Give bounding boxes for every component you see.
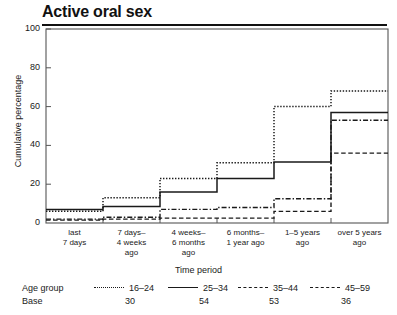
legend-base-label: Base [22, 296, 43, 306]
legend-entry-35-44[interactable]: 35–44 [238, 283, 298, 293]
legend-base-row: Base 30545336 [22, 296, 397, 309]
legend-entry-16-24[interactable]: 16–24 [94, 283, 154, 293]
legend-series-row: Age group 16–2425–3435–4445–59 [22, 283, 397, 296]
legend-series-name: 25–34 [203, 283, 228, 293]
legend-age-group-label: Age group [22, 283, 64, 293]
x-axis-label: Time period [0, 265, 397, 275]
chart-figure: Active oral sex Cumulative percentage 02… [0, 0, 397, 315]
legend-line-swatch [310, 287, 340, 288]
legend-line-swatch [168, 287, 198, 288]
series-line-25-34 [46, 112, 388, 209]
plot-frame [46, 29, 388, 223]
legend-base-value: 36 [326, 296, 366, 306]
legend-series-name: 16–24 [129, 283, 154, 293]
legend-base-value: 53 [254, 296, 294, 306]
legend-line-swatch [94, 287, 124, 288]
series-line-16-24 [46, 91, 388, 211]
legend-entry-25-34[interactable]: 25–34 [168, 283, 228, 293]
legend-series-name: 45–59 [345, 283, 370, 293]
legend-entry-45-59[interactable]: 45–59 [310, 283, 370, 293]
legend-base-value: 54 [184, 296, 224, 306]
legend-base-value: 30 [110, 296, 150, 306]
series-line-35-44 [46, 120, 388, 219]
legend-line-swatch [238, 287, 268, 288]
legend-series-name: 35–44 [273, 283, 298, 293]
chart-legend: Age group 16–2425–3435–4445–59 Base 3054… [22, 283, 397, 309]
